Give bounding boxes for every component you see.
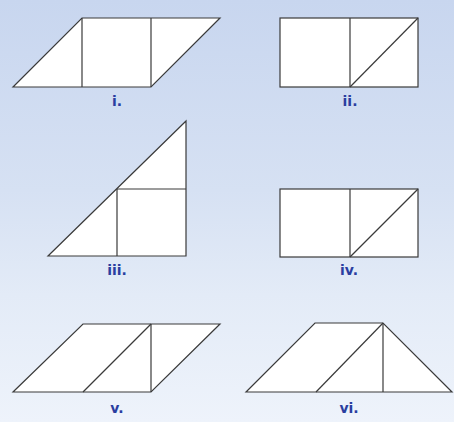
figure-ii [280, 18, 418, 87]
figure-vi [246, 323, 452, 392]
figure-iii [48, 121, 186, 256]
label-iv: iv. [340, 262, 358, 278]
figures-canvas [0, 0, 454, 422]
label-ii: ii. [343, 93, 358, 109]
figure-i [13, 18, 220, 87]
label-vi: vi. [339, 400, 358, 416]
label-i: i. [112, 93, 122, 109]
label-v: v. [110, 400, 123, 416]
figure-iv [280, 189, 418, 257]
figure-v [13, 324, 220, 392]
label-iii: iii. [107, 262, 127, 278]
